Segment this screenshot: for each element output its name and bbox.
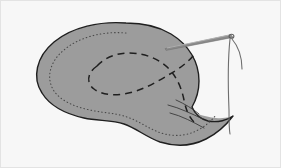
figure-frame bbox=[0, 0, 281, 168]
sewing-diagram-illustration bbox=[0, 0, 281, 168]
